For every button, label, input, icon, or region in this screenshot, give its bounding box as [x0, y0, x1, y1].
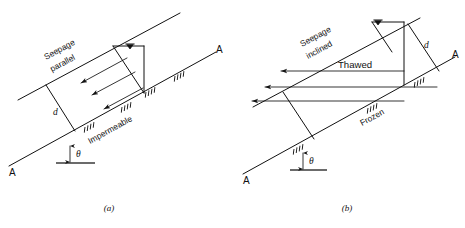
- panel-b-depth-tie-left: [283, 92, 314, 139]
- panel-a-caption: (a): [104, 203, 115, 213]
- panel-b-section-label-right: A: [452, 49, 459, 60]
- panel-a-impermeable-line: [9, 52, 216, 166]
- panel-b-head-triangle-left: [372, 22, 392, 52]
- panel-b-depth-label: d: [424, 40, 429, 50]
- panel-b-frozen-label: Frozen: [358, 106, 386, 128]
- panel-a-hatch-1: [82, 122, 96, 133]
- figure-root: Seepage parallel Impermeable d θ A A (a): [0, 0, 465, 228]
- panel-a-depth-tie-right: [113, 46, 144, 93]
- panel-a-impermeable-label: Impermeable: [86, 113, 134, 145]
- panel-b-frozen-line: [243, 57, 455, 174]
- panel-b-caption: (b): [342, 203, 353, 213]
- panel-a-depth-tie-left: [46, 85, 75, 131]
- panel-b-theta-label: θ: [309, 156, 314, 166]
- panel-b-thawed-label: Thawed: [338, 59, 372, 70]
- panel-a-depth-label: d: [53, 107, 58, 117]
- panel-a-flow-arrow-2: [92, 72, 135, 95]
- panel-a-slope-surface: [18, 13, 180, 100]
- panel-b-hatch-3: [412, 77, 426, 88]
- panel-a-flow-arrow-3: [104, 88, 143, 109]
- panel-a-section-label-left: A: [9, 167, 16, 178]
- seepage-slope-figure: Seepage parallel Impermeable d θ A A (a): [0, 0, 465, 228]
- panel-b: Seepage inclined Thawed Frozen d θ A A (…: [243, 18, 459, 213]
- panel-a: Seepage parallel Impermeable d θ A A (a): [9, 13, 223, 213]
- panel-b-section-label-left: A: [243, 175, 250, 186]
- panel-b-slope-surface: [253, 18, 420, 107]
- panel-a-flow-arrow-1: [81, 58, 127, 83]
- panel-a-section-label-right: A: [216, 44, 223, 55]
- panel-a-theta-label: θ: [76, 149, 81, 159]
